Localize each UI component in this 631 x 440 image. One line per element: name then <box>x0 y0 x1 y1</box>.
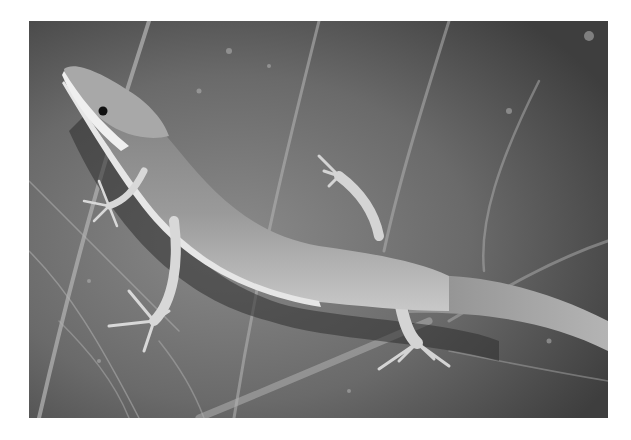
lizard-eye <box>99 107 108 116</box>
leaf-background <box>29 21 608 418</box>
lizard-photo: Grayscale photograph of a slender lizard… <box>29 21 608 418</box>
photo-canvas <box>29 21 608 418</box>
